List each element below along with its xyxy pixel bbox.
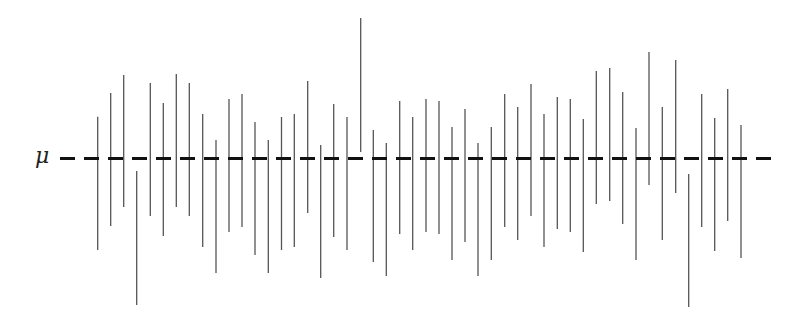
interval-plot: [0, 0, 804, 326]
mu-label: μ: [35, 143, 49, 169]
confidence-interval-diagram: μ: [0, 0, 804, 326]
interval-lines: [98, 18, 741, 307]
